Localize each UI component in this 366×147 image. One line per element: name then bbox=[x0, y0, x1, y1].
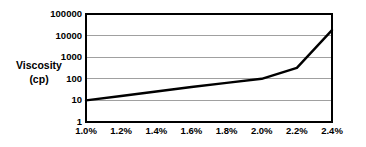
series-line-viscosity bbox=[86, 30, 332, 100]
viscosity-chart: Viscosity (cp) 110100100010000100000 1.0… bbox=[0, 0, 366, 147]
plot-area bbox=[0, 0, 366, 147]
data-series bbox=[86, 30, 332, 100]
